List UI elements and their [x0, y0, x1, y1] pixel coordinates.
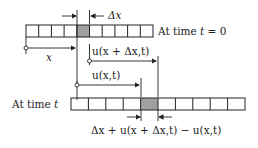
bottom-width-markers — [127, 110, 172, 121]
delta-x-label: Δx — [107, 9, 122, 21]
bottom-shaded-cell — [141, 98, 158, 110]
u-x-label: u(x,t) — [92, 69, 120, 81]
x-label: x — [46, 51, 52, 63]
u-x-plus-dx-label: u(x + Δx,t) — [92, 45, 149, 57]
bottom-width-label: Δx + u(x + Δx,t) − u(x,t) — [91, 124, 221, 136]
displacement-diagram: At time t = 0 Δx x u(x + Δx,t) u(x,t) — [0, 0, 258, 148]
top-bar — [26, 25, 153, 37]
top-bar-label: At time t = 0 — [157, 25, 226, 37]
bottom-bar-label: At time t — [11, 98, 59, 110]
bottom-bar — [71, 98, 245, 110]
top-shaded-cell — [77, 25, 90, 37]
